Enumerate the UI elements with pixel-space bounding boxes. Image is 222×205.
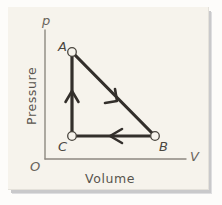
process-line-a-to-b [73,53,154,135]
state-point-c-label: C [58,140,67,153]
y-axis-symbol: p [42,14,50,27]
x-axis-title: Volume [85,173,135,186]
origin-symbol: O [30,160,40,173]
state-point-a-marker [68,48,77,57]
x-axis-symbol: V [190,150,199,163]
state-point-c-marker [68,132,77,141]
y-axis-title: Pressure [26,67,39,125]
state-point-b-marker [151,132,160,141]
state-point-b-label: B [159,140,168,153]
pv-diagram-figure: p V O A B C Pressure Volume [0,0,222,205]
state-point-a-label: A [58,40,67,53]
